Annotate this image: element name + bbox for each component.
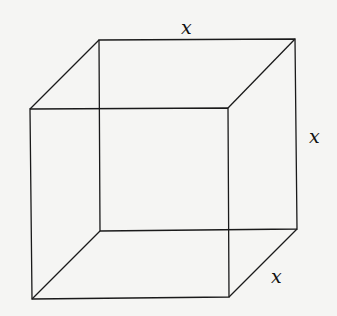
label-right-edge: x [309, 125, 320, 147]
edge-top-left [30, 40, 99, 109]
edge-bottom-left [32, 231, 100, 299]
label-depth-edge: x [271, 265, 282, 287]
edge-top-right [228, 39, 295, 108]
cube-drawing: x x x [0, 0, 337, 316]
label-top-edge: x [181, 16, 192, 38]
cube-diagram: x x x [0, 0, 337, 316]
edge-bottom-right [229, 229, 297, 297]
